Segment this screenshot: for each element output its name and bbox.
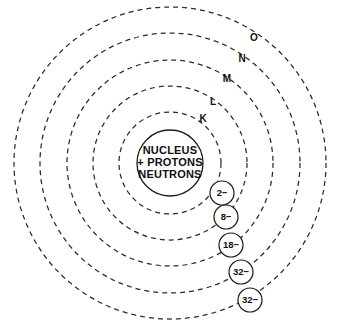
electron-badge-o: 32− [238,288,262,312]
shell-label-l: L [210,96,216,107]
electron-badge-label-m: 18− [223,239,239,250]
shell-label-group: KLMNO [199,32,258,124]
electron-badge-k: 2− [210,181,234,205]
electron-badge-label-k: 2− [217,187,228,198]
electron-badge-m: 18− [219,233,243,257]
atom-diagram-root: NUCLEUS + PROTONS NEUTRONS KLMNO 2−8−18−… [0,0,340,326]
shell-label-n: N [238,53,245,64]
shell-label-k: K [199,113,207,124]
shell-label-o: O [250,32,258,43]
atom-diagram-svg: NUCLEUS + PROTONS NEUTRONS KLMNO 2−8−18−… [0,0,340,326]
electron-badge-n: 32− [229,260,253,284]
electron-badge-label-n: 32− [233,266,249,277]
nucleus-label-line-1: NUCLEUS [143,144,198,156]
electron-badge-l: 8− [214,205,238,229]
electron-badge-group: 2−8−18−32−32− [210,181,262,312]
nucleus-label-line-3: NEUTRONS [138,168,201,180]
nucleus-label-line-2: + PROTONS [137,156,202,168]
electron-badge-label-l: 8− [221,211,232,222]
shell-label-m: M [223,73,231,84]
electron-badge-label-o: 32− [242,294,258,305]
